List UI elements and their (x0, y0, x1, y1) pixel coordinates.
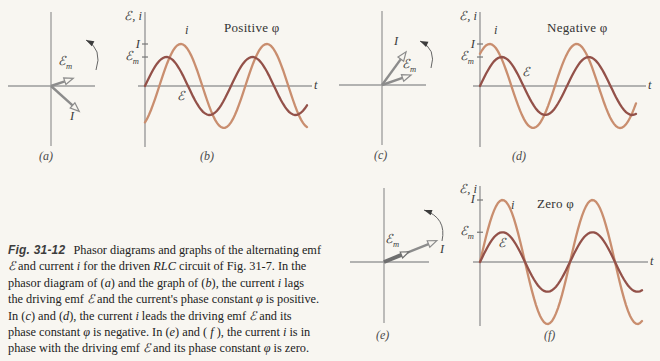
panel-letter-e: (e) (376, 329, 389, 341)
caption-line: Fig. 31-12 Phasor diagrams and graphs of… (8, 242, 321, 258)
panel-letter-c: (c) (374, 149, 387, 161)
phasor-arrowhead (401, 75, 411, 82)
figure-31-12-stage: ℰm I (a) ℰ, i I ℰm Positive φ i ℰ t (b) … (0, 0, 660, 361)
t-axis-label-b: t (314, 79, 317, 92)
caption-line: phase constant φ is negative. In (e) and… (8, 324, 321, 340)
label-emf-curve-d: ℰ (522, 66, 530, 79)
label-emf-amplitude-e: ℰm (385, 233, 399, 248)
caption-line: In (c) and (d), the current i leads the … (8, 308, 321, 324)
label-current-amplitude-a: I (70, 110, 74, 123)
caption-line: the driving emf ℰ and the current's phas… (8, 291, 321, 307)
y-axis-title-b: ℰ, i (104, 10, 142, 23)
panel-letter-b: (b) (200, 150, 214, 162)
panel-letter-a: (a) (39, 150, 53, 162)
tick-label-I-f: I (445, 193, 475, 206)
label-i-curve-d: i (494, 24, 497, 37)
phasor-arrowhead (427, 241, 437, 248)
current-phasor-a (51, 86, 73, 105)
label-emf-curve-b: ℰ (177, 90, 185, 103)
t-axis-label-f: t (650, 255, 653, 268)
tick-label-emfm-b: ℰm (104, 50, 139, 65)
label-emf-curve-f: ℰ (498, 237, 506, 250)
rotation-arrowhead (424, 210, 432, 215)
label-i-curve-b: i (185, 24, 188, 37)
emf-phasor-a (51, 81, 65, 86)
emf-phasor-e (384, 255, 401, 262)
phasor-c (339, 11, 433, 145)
condition-label-b: Positive φ (224, 21, 280, 34)
phasor-e (350, 188, 443, 323)
panel-letter-d: (d) (512, 150, 526, 162)
tick-label-emfm-d: ℰm (439, 50, 474, 65)
label-current-amplitude-e: I (440, 243, 444, 256)
label-emf-amplitude-a: ℰm (58, 55, 72, 70)
condition-label-f: Zero φ (537, 197, 574, 210)
label-i-curve-f: i (511, 199, 514, 212)
y-axis-title-d: ℰ, i (439, 10, 477, 23)
tick-label-emfm-f: ℰm (439, 225, 474, 240)
condition-label-d: Negative φ (547, 21, 608, 34)
caption-line: phasor diagram of (a) and the graph of (… (8, 275, 321, 291)
caption-line: ℰ and current i for the driven RLC circu… (8, 258, 321, 274)
label-emf-amplitude-c: ℰm (402, 58, 416, 73)
figure-caption: Fig. 31-12 Phasor diagrams and graphs of… (8, 242, 321, 357)
caption-line: phase with the driving emf ℰ and its pha… (8, 340, 321, 356)
panel-letter-f: (f) (544, 329, 555, 341)
t-axis-label-d: t (648, 79, 651, 92)
phasor-a (8, 12, 98, 146)
label-current-amplitude-c: I (394, 35, 398, 48)
phasor-arrowhead (64, 78, 74, 85)
